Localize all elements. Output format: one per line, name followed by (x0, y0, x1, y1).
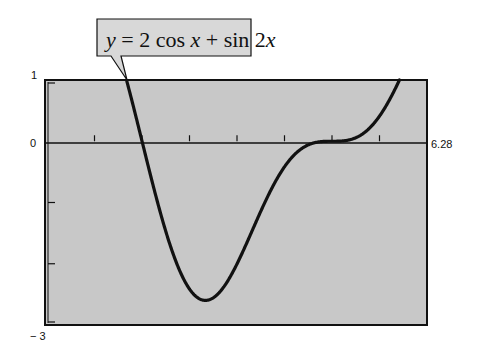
x-label-right: 6.28 (431, 138, 452, 150)
chart: 1 0 − 3 6.28 y = 2 cos x + sin 2x (0, 0, 477, 343)
y-label-top: 1 (31, 69, 37, 81)
plot-area (45, 80, 427, 325)
equation-callout: y = 2 cos x + sin 2x (97, 19, 276, 80)
y-label-bottom: − 3 (30, 330, 46, 342)
y-label-zero: 0 (30, 137, 36, 149)
equation-label: y = 2 cos x + sin 2x (104, 27, 276, 52)
